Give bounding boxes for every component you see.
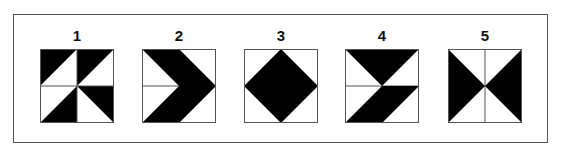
figure-label: 3 [244, 27, 318, 45]
figure-label: 5 [448, 27, 522, 45]
triangle-parallelogram-icon [345, 49, 419, 123]
figure-label: 2 [142, 27, 216, 45]
chevron-icon [142, 49, 216, 123]
figure-label: 4 [345, 27, 419, 45]
bowtie-icon [448, 49, 522, 123]
figure-label: 1 [40, 27, 114, 45]
pinwheel-icon [40, 49, 114, 123]
diamond-icon [244, 49, 318, 123]
